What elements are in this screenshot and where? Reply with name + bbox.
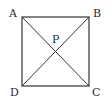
vertex-label-b: B	[93, 7, 101, 20]
vertex-label-c: C	[92, 86, 100, 99]
intersection-label-p: P	[52, 33, 60, 46]
square-diagram: A B C D P	[0, 0, 112, 102]
vertex-label-d: D	[10, 86, 19, 99]
vertex-label-a: A	[8, 7, 18, 20]
